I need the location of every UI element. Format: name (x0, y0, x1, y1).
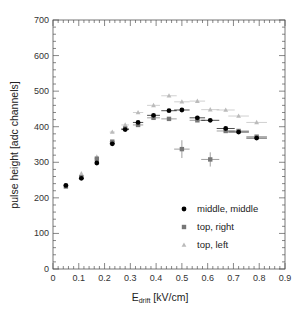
y-axis-ticks: 0100200300400500600700 (34, 15, 285, 274)
x-tick-label: 0.1 (73, 273, 86, 283)
data-series (63, 93, 266, 189)
plot-border (53, 20, 285, 269)
x-axis-ticks: 00.10.20.30.40.50.60.70.80.9 (50, 20, 291, 283)
series-top-right (64, 116, 267, 189)
x-tick-label: 0.2 (98, 273, 111, 283)
legend-item-label: top, right (197, 221, 234, 232)
x-tick-label: 0 (50, 273, 55, 283)
series-middle-middle (63, 108, 266, 188)
y-tick-label: 300 (34, 157, 49, 167)
x-axis-label-subscript: drift (139, 297, 151, 304)
x-tick-label: 0.8 (253, 273, 266, 283)
legend-item-label: top, left (197, 239, 229, 250)
y-tick-label: 100 (34, 228, 49, 238)
y-tick-label: 0 (44, 264, 49, 274)
scatter-chart: 00.10.20.30.40.50.60.70.80.9 01002003004… (0, 0, 305, 317)
x-axis-label-main: E (132, 291, 139, 303)
x-tick-label: 0.9 (279, 273, 292, 283)
x-tick-label: 0.6 (201, 273, 214, 283)
x-tick-label: 0.4 (150, 273, 163, 283)
x-axis-label: Edrift [kV/cm] (132, 291, 189, 304)
legend: middle, middletop, righttop, left (182, 203, 259, 250)
y-tick-label: 600 (34, 51, 49, 61)
x-tick-label: 0.3 (124, 273, 137, 283)
plot-frame (53, 20, 285, 269)
x-axis-label-unit: [kV/cm] (150, 291, 188, 303)
y-tick-label: 700 (34, 15, 49, 25)
y-tick-label: 200 (34, 193, 49, 203)
x-tick-label: 0.7 (227, 273, 240, 283)
y-tick-label: 500 (34, 86, 49, 96)
x-tick-label: 0.5 (176, 273, 189, 283)
y-axis-label: pulse height [adc channels] (8, 81, 20, 208)
legend-item-label: middle, middle (197, 203, 258, 214)
y-tick-label: 400 (34, 122, 49, 132)
